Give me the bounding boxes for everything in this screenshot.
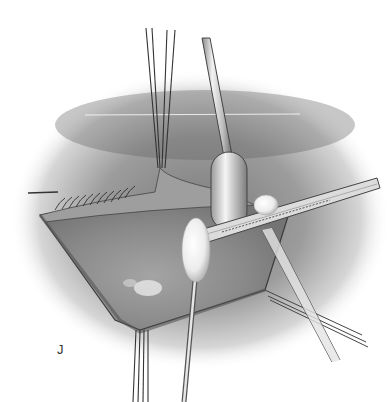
cotton-applicator-right [254,195,278,215]
lid-margin-line [28,192,58,193]
tissue-highlight [134,280,162,296]
brow-shadow [55,90,355,160]
tissue-highlight [123,279,137,287]
panel-label: J [57,342,64,357]
